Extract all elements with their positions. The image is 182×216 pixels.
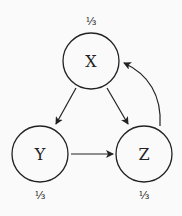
edge-x-to-z xyxy=(107,88,128,124)
node-y-label: Y xyxy=(34,145,46,164)
edge-z-to-x xyxy=(124,63,160,126)
node-z: Z ⅓ xyxy=(116,126,172,202)
markov-diagram: X ⅓ Y ⅓ Z ⅓ xyxy=(0,0,182,216)
node-x-label: X xyxy=(85,52,97,71)
node-y-probability: ⅓ xyxy=(35,189,46,202)
edge-x-to-y xyxy=(56,88,76,124)
node-y: Y ⅓ xyxy=(12,126,68,202)
node-x-probability: ⅓ xyxy=(86,15,97,28)
node-x: X ⅓ xyxy=(63,15,119,89)
node-z-label: Z xyxy=(138,145,149,164)
node-z-probability: ⅓ xyxy=(139,189,150,202)
